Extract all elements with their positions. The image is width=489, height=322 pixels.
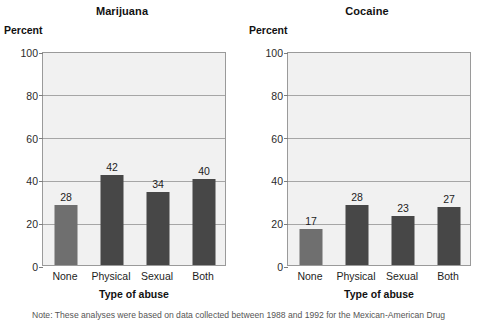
bar-value-label: 42 bbox=[106, 161, 118, 173]
y-tick-label: 40 bbox=[271, 175, 283, 187]
bar-value-label: 34 bbox=[152, 178, 164, 190]
y-tick-label: 0 bbox=[277, 261, 283, 273]
bar-value-label: 28 bbox=[351, 191, 363, 203]
y-tick-label: 0 bbox=[32, 261, 38, 273]
bar[interactable] bbox=[147, 192, 170, 265]
y-tick-mark bbox=[39, 267, 43, 268]
y-tick-mark bbox=[284, 267, 288, 268]
y-tick-label: 60 bbox=[271, 133, 283, 145]
x-axis-label: Type of abuse bbox=[42, 288, 226, 300]
chart-title: Marijuana bbox=[0, 5, 244, 17]
bar-slot: 34 bbox=[135, 53, 181, 265]
chart-panel-marijuana: Marijuana Percent 020406080100 28423440 … bbox=[0, 0, 244, 300]
bar[interactable] bbox=[346, 205, 369, 265]
bar[interactable] bbox=[392, 216, 415, 265]
bar-slot: 28 bbox=[43, 53, 89, 265]
plot-area: 020406080100 28423440 bbox=[42, 52, 226, 266]
figure: Marijuana Percent 020406080100 28423440 … bbox=[0, 0, 489, 322]
x-axis-label: Type of abuse bbox=[287, 288, 471, 300]
y-tick-label: 80 bbox=[26, 90, 38, 102]
x-tick-label: Sexual bbox=[386, 270, 418, 282]
y-tick-label: 100 bbox=[20, 47, 38, 59]
bar-value-label: 40 bbox=[198, 165, 210, 177]
x-tick-label: Both bbox=[437, 270, 459, 282]
x-tick-label: Sexual bbox=[141, 270, 173, 282]
x-tick-label: Physical bbox=[336, 270, 375, 282]
bar-slot: 42 bbox=[89, 53, 135, 265]
bar-slot: 17 bbox=[288, 53, 334, 265]
bar[interactable] bbox=[55, 205, 78, 265]
bars-group: 17282327 bbox=[288, 53, 470, 265]
y-tick-label: 80 bbox=[271, 90, 283, 102]
plot-area: 020406080100 17282327 bbox=[287, 52, 471, 266]
bar-value-label: 17 bbox=[305, 215, 317, 227]
chart-panel-cocaine: Cocaine Percent 020406080100 17282327 No… bbox=[245, 0, 489, 300]
x-tick-label: None bbox=[297, 270, 322, 282]
bar-slot: 40 bbox=[181, 53, 227, 265]
bar-value-label: 23 bbox=[397, 202, 409, 214]
y-axis-label: Percent bbox=[249, 24, 288, 36]
bar[interactable] bbox=[300, 229, 323, 265]
y-tick-label: 60 bbox=[26, 133, 38, 145]
bars-group: 28423440 bbox=[43, 53, 225, 265]
figure-note: Note: These analyses were based on data … bbox=[32, 310, 484, 321]
bar[interactable] bbox=[438, 207, 461, 265]
bar-value-label: 27 bbox=[443, 193, 455, 205]
bar[interactable] bbox=[101, 175, 124, 265]
bar-slot: 27 bbox=[426, 53, 472, 265]
y-tick-label: 40 bbox=[26, 175, 38, 187]
y-axis-label: Percent bbox=[4, 24, 43, 36]
bar-value-label: 28 bbox=[60, 191, 72, 203]
x-tick-label: Physical bbox=[91, 270, 130, 282]
y-tick-label: 100 bbox=[265, 47, 283, 59]
chart-title: Cocaine bbox=[245, 5, 489, 17]
bar-slot: 23 bbox=[380, 53, 426, 265]
x-tick-label: None bbox=[52, 270, 77, 282]
y-tick-label: 20 bbox=[26, 218, 38, 230]
bar-slot: 28 bbox=[334, 53, 380, 265]
y-tick-label: 20 bbox=[271, 218, 283, 230]
x-tick-label: Both bbox=[192, 270, 214, 282]
bar[interactable] bbox=[193, 179, 216, 265]
